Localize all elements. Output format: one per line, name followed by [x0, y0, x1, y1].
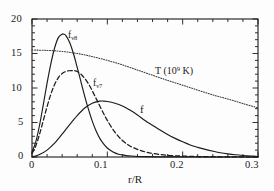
- data-curves: [32, 34, 258, 157]
- curve-label-fnu7-subscript: ν7: [96, 82, 102, 89]
- curve-label-f-base: f: [140, 103, 144, 115]
- y-tick-label-20: 20: [11, 13, 22, 24]
- curve-label-fnu7: fν7: [93, 78, 102, 89]
- curve-f_nu7: [32, 71, 258, 157]
- x-tick-label-0p1: 0.1: [94, 159, 108, 170]
- x-tick-label-0p2: 0.2: [170, 159, 184, 170]
- y-tick-label-0: 0: [18, 150, 23, 161]
- temperature-label-tail: K): [180, 65, 193, 76]
- curve-f: [32, 101, 258, 157]
- x-axis-title: r/R: [128, 173, 142, 185]
- curve-label-fnu8-subscript: ν8: [71, 34, 77, 41]
- curve-label-fnu8: fν8: [68, 30, 77, 41]
- x-tick-label-0p3: 0.3: [245, 159, 259, 170]
- y-tick-label-5: 5: [18, 116, 23, 127]
- plot-frame: [32, 19, 258, 157]
- plot-canvas: [0, 0, 274, 191]
- curve-T: [32, 50, 258, 108]
- curve-label-f: f: [140, 103, 144, 115]
- curve-label-temperature: T (109 K): [155, 65, 193, 76]
- axis-ticks: [32, 19, 258, 157]
- y-tick-label-10: 10: [11, 82, 22, 93]
- y-tick-label-15: 15: [11, 47, 22, 58]
- figure-container: 20 15 10 5 0 0 0.1 0.2 0.3 r/R fν8 fν7 f…: [0, 0, 274, 191]
- temperature-label-head: T (10: [155, 65, 177, 76]
- axes-frame: [32, 19, 258, 157]
- curve-f_nu8: [32, 34, 258, 157]
- x-tick-label-0: 0: [29, 159, 34, 170]
